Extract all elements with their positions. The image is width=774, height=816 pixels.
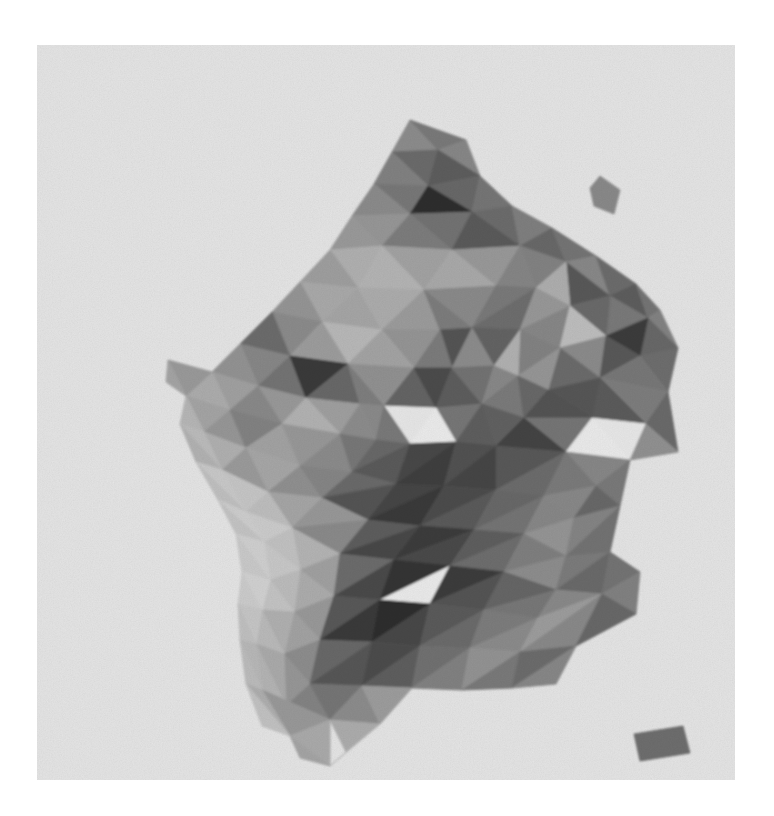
screenshot-canvas	[0, 0, 774, 816]
triangle-mesh	[166, 120, 678, 766]
upper-right-fragment	[590, 176, 620, 214]
lower-right-fragment	[634, 726, 690, 761]
mesh-triangle	[330, 720, 380, 752]
low-poly-artwork	[0, 0, 774, 816]
